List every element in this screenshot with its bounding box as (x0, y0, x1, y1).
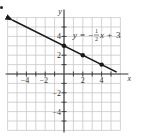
eq-numerator: 1 (95, 28, 98, 34)
eq-minus: − (88, 30, 93, 40)
x-tick-label: 2 (81, 76, 85, 85)
coordinate-plot: −4−22442−2−4xy y=−12x+3 (0, 0, 143, 137)
eq-equals: = (80, 30, 85, 40)
axis-labels: −4−22442−2−4xy (21, 7, 132, 117)
y-tick-label: −2 (52, 89, 61, 98)
data-point (99, 62, 103, 66)
eq-denominator: 2 (95, 36, 98, 42)
data-point (62, 44, 66, 48)
y-axis-label: y (57, 7, 62, 16)
y-tick-label: 2 (57, 51, 61, 60)
x-tick-label: −4 (21, 76, 30, 85)
y-tick-label: 4 (57, 32, 61, 41)
y-tick-label: −4 (52, 108, 61, 117)
axes (6, 10, 129, 133)
equation-label: y=−12x+3 (72, 28, 121, 42)
data-point (81, 53, 85, 57)
eq-plus: + (107, 30, 112, 40)
eq-constant: 3 (116, 30, 121, 40)
x-tick-label: 4 (100, 76, 104, 85)
eq-lhs: y (72, 30, 77, 40)
x-axis-label: x (127, 74, 132, 83)
eq-var: x (99, 30, 104, 40)
x-tick-label: −2 (39, 76, 48, 85)
